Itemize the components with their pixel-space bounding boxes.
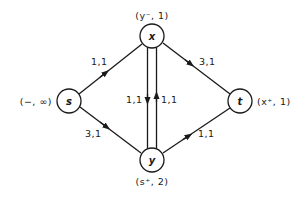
node-s-label: s [66, 96, 72, 107]
edge-label-s-y: 3,1 [85, 128, 102, 139]
edge-s-to-x: 1,1 [79, 44, 142, 94]
edge-label-s-x: 1,1 [91, 56, 108, 67]
edge-s-to-y: 3,1 [80, 107, 141, 153]
node-x-label: x [148, 31, 156, 42]
edge-y-to-x: 1,1 [157, 47, 178, 149]
node-y-annotation: (s⁺, 2) [136, 176, 169, 187]
edge-label-y-x: 1,1 [161, 94, 178, 105]
node-t-annotation: (x⁺, 1) [257, 96, 291, 107]
edge-label-y-t: 1,1 [198, 128, 215, 139]
node-x: x (y⁻, 1) [135, 10, 169, 48]
edge-label-x-y: 1,1 [126, 94, 143, 105]
flow-network-diagram: 1,1 3,1 3,1 1,1 1,1 [0, 0, 304, 197]
edge-y-to-t: 1,1 [163, 108, 230, 153]
node-y-label: y [149, 155, 156, 166]
node-s-annotation: (−, ∞) [20, 96, 52, 107]
edge-x-to-y: 1,1 [126, 47, 148, 149]
node-y: y (s⁺, 2) [136, 148, 169, 187]
node-s: s (−, ∞) [20, 89, 81, 113]
node-x-annotation: (y⁻, 1) [135, 10, 169, 21]
edge-x-to-t: 3,1 [163, 43, 230, 94]
edge-label-x-t: 3,1 [199, 56, 216, 67]
node-t: t (x⁺, 1) [228, 89, 291, 113]
